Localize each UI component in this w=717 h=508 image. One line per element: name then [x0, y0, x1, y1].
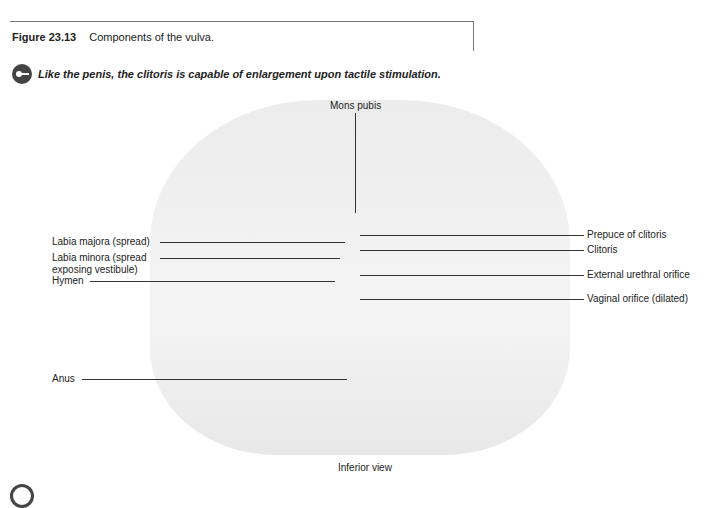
- leader-prepuce: [360, 235, 584, 236]
- label-clitoris: Clitoris: [587, 244, 618, 256]
- label-mons-pubis: Mons pubis: [330, 100, 381, 112]
- label-vaginal-orifice: Vaginal orifice (dilated): [587, 293, 688, 305]
- key-note-text: Like the penis, the clitoris is capable …: [38, 68, 441, 80]
- label-labia-majora: Labia majora (spread): [52, 236, 150, 248]
- leader-labia-minora: [160, 258, 340, 259]
- figure-caption: Figure 23.13 Components of the vulva.: [12, 31, 214, 43]
- leader-clitoris: [360, 250, 584, 251]
- view-label: Inferior view: [338, 462, 392, 473]
- label-anus: Anus: [52, 373, 75, 385]
- label-labia-minora-line1: Labia minora (spread: [52, 252, 147, 264]
- key-icon-bottom: [10, 484, 34, 508]
- leader-anus: [82, 379, 347, 380]
- right-rule: [473, 21, 474, 51]
- leader-vaginal-orifice: [360, 299, 584, 300]
- anatomical-illustration: [150, 100, 570, 455]
- leader-mons-pubis: [355, 113, 356, 213]
- key-note: Like the penis, the clitoris is capable …: [12, 64, 441, 84]
- leader-urethral-orifice: [360, 275, 584, 276]
- label-urethral-orifice: External urethral orifice: [587, 269, 690, 281]
- key-icon: [12, 64, 32, 84]
- figure-caption-text: Components of the vulva.: [89, 31, 214, 43]
- leader-hymen: [90, 281, 335, 282]
- label-hymen: Hymen: [52, 275, 84, 287]
- label-prepuce: Prepuce of clitoris: [587, 229, 666, 241]
- illustration-placeholder: [150, 100, 570, 455]
- figure-number: Figure 23.13: [12, 31, 76, 43]
- leader-labia-majora: [160, 242, 345, 243]
- top-rule: [10, 21, 474, 22]
